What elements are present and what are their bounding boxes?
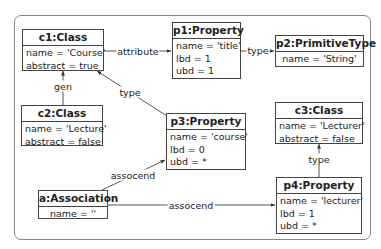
- attr-lbd: lbd = 0: [170, 144, 242, 157]
- node-p4-property[interactable]: p4:Property name = 'lecturer' lbd = 1 ub…: [276, 177, 362, 234]
- node-c3-class[interactable]: c3:Class name = 'Lecturer' abstract = fa…: [275, 102, 363, 144]
- attr-name: name = 'String': [279, 53, 360, 66]
- node-title: c1:Class: [23, 30, 103, 46]
- node-c2-class[interactable]: c2:Class name = 'Lecture' abstract = fal…: [21, 105, 103, 146]
- node-title: c3:Class: [276, 103, 362, 119]
- attr-name: name = 'course': [170, 131, 242, 144]
- node-title: p1:Property: [173, 23, 240, 39]
- attr-name: name = 'title': [176, 40, 237, 53]
- attr-abstract: abstract = false: [25, 136, 99, 149]
- node-title: p4:Property: [277, 178, 361, 194]
- attr-name: name = 'Lecture': [25, 123, 99, 136]
- edge-label-p1-type: type: [246, 45, 269, 56]
- attr-name: name = 'Lecturer': [279, 120, 359, 133]
- edge-label-assocend-p3: assocend: [110, 170, 157, 181]
- edge-label-p4-type: type: [307, 154, 330, 165]
- edge-label-p3-type: type: [118, 87, 141, 98]
- attr-name: name = 'Course': [26, 47, 100, 60]
- node-title: c2:Class: [22, 106, 102, 122]
- edge-label-assocend-p4: assocend: [168, 200, 215, 211]
- attr-name: name = 'lecturer': [280, 195, 358, 208]
- edge-label-gen: gen: [53, 81, 73, 92]
- edge-label-attribute: attribute: [116, 46, 159, 57]
- node-title: a:Association: [39, 191, 107, 207]
- node-title: p3:Property: [167, 114, 245, 130]
- attr-abstract: abstract = true: [26, 60, 100, 73]
- attr-lbd: lbd = 1: [176, 53, 237, 66]
- attr-ubd: ubd = *: [170, 156, 242, 169]
- attr-abstract: abstract = false: [279, 133, 359, 146]
- node-p2-primitivetype[interactable]: p2:PrimitiveType name = 'String': [275, 35, 364, 67]
- node-a-association[interactable]: a:Association name = '': [38, 190, 108, 219]
- attr-ubd: ubd = *: [280, 220, 358, 233]
- node-c1-class[interactable]: c1:Class name = 'Course' abstract = true: [22, 29, 104, 71]
- attr-lbd: lbd = 1: [280, 208, 358, 221]
- node-title: p2:PrimitiveType: [276, 36, 363, 52]
- attr-ubd: ubd = 1: [176, 65, 237, 78]
- node-p3-property[interactable]: p3:Property name = 'course' lbd = 0 ubd …: [166, 113, 246, 170]
- node-p1-property[interactable]: p1:Property name = 'title' lbd = 1 ubd =…: [172, 22, 241, 79]
- attr-name: name = '': [42, 208, 104, 221]
